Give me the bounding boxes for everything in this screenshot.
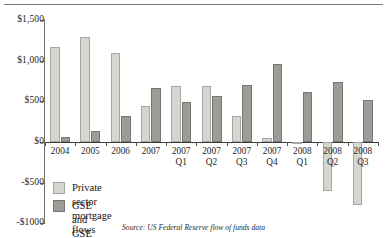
x-axis-category-label: 2006: [106, 146, 136, 157]
x-axis-tick: [378, 142, 379, 146]
bar-light: [262, 138, 272, 142]
bar-dark: [182, 102, 192, 142]
legend-swatch-icon-private-sector: [53, 182, 65, 194]
bar-dark: [151, 88, 161, 142]
x-axis-category-label: 2004: [45, 146, 75, 157]
legend-swatch-icon-gse: [53, 200, 65, 212]
x-axis-category-label: 2007: [136, 146, 166, 157]
bar-dark: [212, 96, 222, 142]
x-axis-category-label: 2007Q2: [196, 146, 226, 167]
x-axis-category-label: 2007Q3: [227, 146, 257, 167]
top-divider: [4, 4, 383, 5]
bar-dark: [363, 100, 373, 142]
y-axis-line: [44, 19, 45, 224]
y-axis-label: $1,000: [4, 56, 44, 66]
bar-dark: [273, 64, 283, 142]
bar-dark: [91, 131, 101, 142]
source-note: Source: US Federal Reserve flow of funds…: [0, 223, 387, 233]
bar-light: [232, 116, 242, 142]
x-axis-category-label: 2008Q3: [348, 146, 378, 167]
bar-dark: [303, 92, 313, 142]
bar-light: [141, 106, 151, 142]
bar-dark: [61, 137, 71, 142]
chart-figure: $1,500$1,000$500$0-$500-$1000 2004200520…: [0, 0, 387, 238]
y-axis-label: -$500: [4, 178, 44, 188]
x-axis-category-label: 2007Q4: [257, 146, 287, 167]
y-axis-label: $500: [4, 96, 44, 106]
bar-light: [171, 86, 181, 142]
x-axis-category-label: 2007Q1: [166, 146, 196, 167]
bar-light: [50, 47, 60, 142]
bar-light: [292, 142, 302, 144]
y-axis-label: $0: [4, 137, 44, 147]
bar-light: [202, 86, 212, 142]
x-axis-category-label: 2008Q2: [317, 146, 347, 167]
x-axis-category-label: 2008Q1: [287, 146, 317, 167]
y-axis-label: $1,500: [4, 15, 44, 25]
bar-dark: [121, 116, 131, 142]
bar-light: [111, 53, 121, 142]
bar-dark: [333, 82, 343, 142]
x-axis-category-label: 2005: [75, 146, 105, 157]
bar-light: [80, 37, 90, 142]
bar-dark: [242, 85, 252, 142]
